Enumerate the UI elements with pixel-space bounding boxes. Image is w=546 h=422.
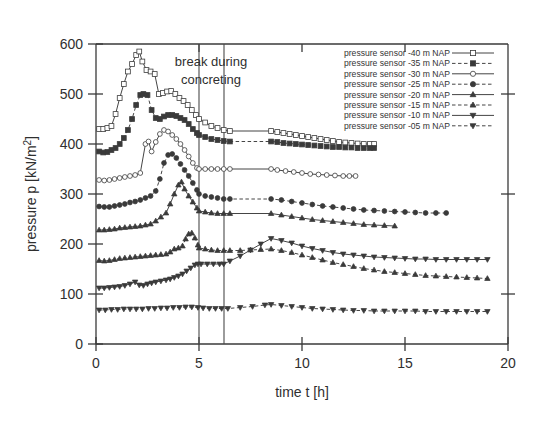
y-tick-label-300: 300 <box>60 186 84 202</box>
y-tick-label-100: 100 <box>60 286 84 302</box>
break-annotation-line2: concreting <box>181 72 241 87</box>
y-tick-label-0: 0 <box>75 336 83 352</box>
x-axis-title: time t [h] <box>275 384 329 400</box>
y-tick-label-400: 400 <box>60 136 84 152</box>
x-tick-label-0: 0 <box>92 355 100 371</box>
x-tick-label-20: 20 <box>500 355 516 371</box>
legend-marker-0 <box>470 50 475 55</box>
legend-label-6: pressure sensor -10 m NAP <box>344 110 450 120</box>
y-tick-label-500: 500 <box>60 86 84 102</box>
x-tick-label-10: 10 <box>294 355 310 371</box>
legend-label-4: pressure sensor -20 m NAP <box>344 90 450 100</box>
y-tick-label-200: 200 <box>60 236 84 252</box>
legend-label-7: pressure sensor -05 m NAP <box>344 121 450 131</box>
legend-marker-2 <box>470 71 475 76</box>
legend-label-3: pressure sensor -25 m NAP <box>344 79 450 89</box>
pressure-vs-time-chart: 0 100 200 300 400 500 600 0 5 10 15 20 <box>0 0 546 422</box>
legend-marker-1 <box>470 61 475 66</box>
y-tick-label-600: 600 <box>60 36 84 52</box>
y-axis-title: pressure p [kN/m2] <box>22 136 40 252</box>
legend-label-1: pressure sensor -35 m NAP <box>344 58 450 68</box>
legend-marker-3 <box>470 82 475 87</box>
legend-label-0: pressure sensor -40 m NAP <box>344 48 450 58</box>
break-annotation-line1: break during <box>175 54 247 69</box>
x-tick-label-5: 5 <box>195 355 203 371</box>
legend-label-5: pressure sensor -15 m NAP <box>344 100 450 110</box>
figure-container: 0 100 200 300 400 500 600 0 5 10 15 20 <box>0 0 546 422</box>
x-tick-label-15: 15 <box>397 355 413 371</box>
legend-label-2: pressure sensor -30 m NAP <box>344 69 450 79</box>
